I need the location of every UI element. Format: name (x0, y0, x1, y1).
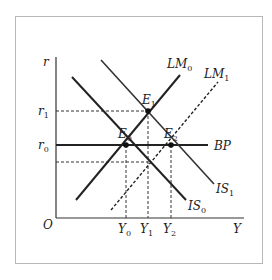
y-axis-label: r (43, 55, 50, 69)
e2-label: E2 (163, 127, 178, 143)
point-e1 (145, 108, 151, 114)
point-e0 (123, 142, 129, 148)
e0-label: E0 (117, 127, 132, 143)
origin-label: O (43, 218, 53, 232)
point-e2 (168, 142, 174, 148)
lm1-label: LM1 (203, 67, 229, 83)
x-axis-label: Y (233, 222, 242, 236)
y1-label: Y1 (140, 222, 153, 238)
is0-label: IS0 (187, 199, 206, 215)
r0-label: r0 (38, 138, 49, 154)
y2-label: Y2 (163, 222, 176, 238)
is1-curve (101, 60, 214, 184)
bp-label: BP (213, 139, 232, 153)
is-lm-bp-diagram: r Y O r1 r0 Y0 Y1 Y2 LM0 LM1 BP IS1 IS0 … (0, 0, 272, 280)
y0-label: Y0 (118, 222, 131, 238)
r1-label: r1 (38, 104, 49, 120)
e1-label: E1 (141, 93, 156, 109)
is1-label: IS1 (215, 182, 234, 198)
lm0-label: LM0 (166, 57, 192, 73)
